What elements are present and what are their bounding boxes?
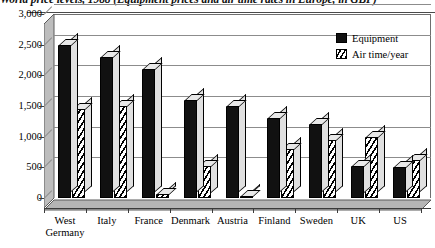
y-axis-tick-label: 2,500	[6, 40, 42, 50]
legend-item-air-time: Air time/year	[336, 48, 428, 60]
x-axis-tick	[295, 208, 296, 213]
bar-side	[280, 106, 287, 192]
gridline	[54, 4, 431, 5]
y-axis-tick-label: 2,000	[6, 70, 42, 80]
x-axis-tick	[421, 208, 422, 213]
bar-face	[142, 69, 155, 198]
x-axis-tick	[379, 208, 380, 213]
legend-label-air-time: Air time/year	[352, 49, 408, 60]
bar-side	[155, 57, 162, 192]
bar-face	[351, 166, 364, 199]
bar-equipment-sweden	[309, 124, 322, 198]
chart-legend: Equipment Air time/year	[336, 32, 428, 64]
bar-side	[239, 94, 246, 192]
bar-equipment-austria	[226, 106, 239, 198]
y-axis-tick-label: 1,500	[6, 101, 42, 111]
bar-side	[197, 88, 204, 192]
bar-equipment-uk	[351, 166, 364, 199]
bar-equipment-italy	[100, 57, 113, 198]
hatched-swatch-icon	[336, 49, 347, 59]
bar-equipment-finland	[267, 118, 280, 198]
y-axis-tick-label: 1,000	[6, 132, 42, 142]
solid-swatch-icon	[336, 33, 347, 43]
y-axis-tick-label: 500	[6, 162, 42, 172]
x-axis-line	[44, 208, 431, 209]
legend-label-equipment: Equipment	[352, 33, 398, 44]
x-axis-tick	[128, 208, 129, 213]
bar-face	[58, 45, 71, 198]
title-divider	[27, 12, 435, 13]
y-axis-tick-label: 0	[6, 193, 42, 203]
x-axis-tick	[337, 208, 338, 213]
bar-air-time-year-austria	[240, 196, 253, 198]
bar-face	[184, 100, 197, 198]
y-axis: 05001,0001,5002,0002,5003,000	[0, 0, 42, 248]
bar-face	[309, 124, 322, 198]
legend-item-equipment: Equipment	[336, 32, 428, 44]
x-axis-tick	[253, 208, 254, 213]
bar-equipment-denmark	[184, 100, 197, 198]
bar-equipment-france	[142, 69, 155, 198]
bar-side	[127, 94, 134, 192]
bar-equipment-west-germany	[58, 45, 71, 198]
bar-side	[85, 97, 92, 192]
bar-face	[267, 118, 280, 198]
x-axis-category-label: US	[373, 215, 427, 227]
bar-face	[100, 57, 113, 198]
bar-face	[393, 167, 406, 198]
bar-air-time-year-france	[156, 194, 169, 198]
bar-side	[71, 33, 78, 192]
bar-side	[322, 112, 329, 192]
x-axis-tick	[170, 208, 171, 213]
x-axis-tick	[86, 208, 87, 213]
chart-floor	[44, 197, 431, 208]
y-axis-tick-label: 3,000	[6, 9, 42, 19]
bar-face	[226, 106, 239, 198]
x-axis-tick	[44, 208, 45, 213]
x-axis-tick	[212, 208, 213, 213]
x-axis: West GermanyItalyFranceDenmarkAustriaFin…	[44, 208, 431, 248]
bar-side	[113, 45, 120, 192]
bar-equipment-us	[393, 167, 406, 198]
